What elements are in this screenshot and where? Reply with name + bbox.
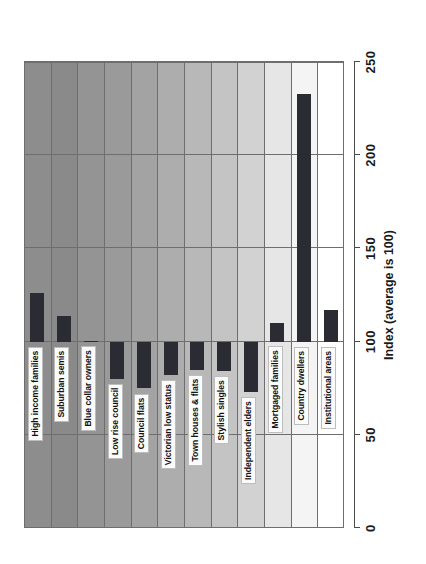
axis-line: [354, 62, 355, 528]
axis-tick: [354, 61, 360, 62]
axis-tick-label: 50: [363, 415, 378, 455]
category-label: Town houses & flats: [188, 375, 203, 466]
category-label: Suburban semis: [54, 347, 69, 422]
category-label: Institutional areas: [321, 347, 336, 429]
axis-tick-label: 250: [363, 42, 378, 82]
axis-tick: [354, 341, 360, 342]
category-label: Victorian low status: [161, 380, 176, 469]
axis-tick: [354, 527, 360, 528]
category-label: Country dwellers: [294, 347, 309, 425]
category-labels: High income familiesSuburban semisBlue c…: [24, 62, 344, 528]
axis-tick-label: 100: [363, 322, 378, 362]
category-label: Blue collar owners: [81, 346, 96, 430]
axis-tick-label: 0: [363, 508, 378, 548]
category-label: Stylish singles: [214, 376, 229, 444]
axis-tick: [354, 154, 360, 155]
category-label: Mortgaged families: [268, 346, 283, 432]
axis-tick-label: 200: [363, 135, 378, 175]
category-label: High income families: [28, 347, 43, 441]
axis-title: Index (average is 100): [382, 230, 396, 360]
axis-tick: [354, 434, 360, 435]
axis-tick-label: 150: [363, 228, 378, 268]
category-label: Independent elders: [241, 397, 256, 484]
axis-tick: [354, 247, 360, 248]
category-label: Low rise council: [108, 384, 123, 459]
category-label: Council flats: [134, 394, 149, 454]
plot-area: High income familiesSuburban semisBlue c…: [24, 62, 344, 528]
rotated-chart-stage: High income familiesSuburban semisBlue c…: [0, 0, 426, 564]
